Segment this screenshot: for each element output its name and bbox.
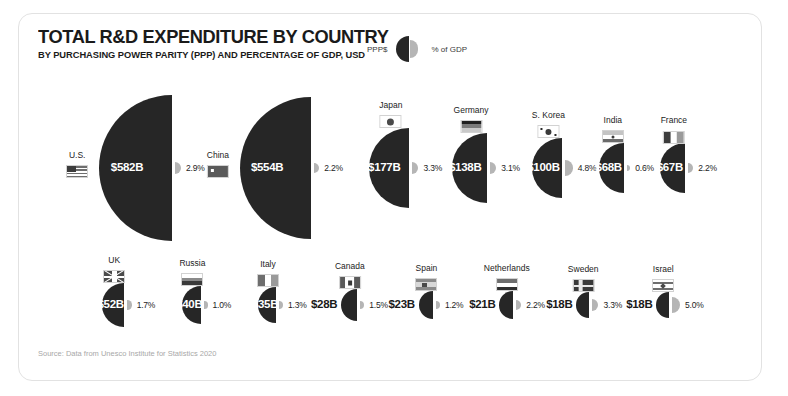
- ppp-amount-label: $35B: [252, 298, 278, 310]
- country-header: Italy: [257, 259, 279, 289]
- gdp-halfcircle: [490, 162, 496, 175]
- flag-fr-icon: [663, 131, 685, 144]
- country-name: France: [661, 115, 687, 125]
- gdp-percent-label: 0.6%: [635, 163, 654, 173]
- gdp-halfcircle: [279, 301, 283, 309]
- gdp-percent-label: 2.2%: [324, 163, 343, 173]
- gdp-halfcircle: [627, 165, 630, 171]
- ppp-amount-label: $138B: [449, 161, 481, 173]
- country-name: India: [602, 115, 624, 125]
- country-header: S. Korea: [532, 110, 565, 140]
- country-header: Sweden: [568, 264, 599, 294]
- country-header: France: [661, 115, 687, 145]
- gdp-percent-label: 3.3%: [603, 300, 622, 310]
- country-header: Israel: [652, 264, 674, 294]
- flag-it-icon: [257, 274, 279, 287]
- flag-es-icon: [415, 278, 437, 291]
- flag-se-icon: [572, 279, 594, 292]
- country-header: U.S.: [66, 150, 88, 180]
- flag-ca-icon: [339, 276, 361, 289]
- gdp-halfcircle: [204, 301, 208, 308]
- country-header: Germany: [454, 105, 489, 135]
- gdp-halfcircle: [314, 163, 319, 174]
- country-name: Italy: [257, 259, 279, 269]
- chart-plot-area: $582B2.9%U.S.$554B2.2%China$177B3.3%Japa…: [19, 14, 763, 382]
- ppp-amount-label: $18B: [546, 298, 572, 310]
- flag-cn-icon: [207, 165, 229, 178]
- flag-de-icon: [460, 120, 482, 133]
- gdp-percent-label: 4.8%: [578, 163, 597, 173]
- country-header: Spain: [415, 263, 437, 293]
- gdp-percent-label: 3.1%: [501, 163, 520, 173]
- gdp-percent-label: 3.3%: [423, 163, 442, 173]
- country-header: India: [602, 115, 624, 145]
- gdp-percent-label: 2.2%: [526, 300, 545, 310]
- gdp-halfcircle: [688, 163, 693, 174]
- ppp-amount-label: $52B: [97, 298, 123, 310]
- flag-nl-icon: [496, 278, 518, 291]
- ppp-halfcircle: [341, 289, 357, 321]
- gdp-halfcircle: [360, 301, 364, 310]
- gdp-halfcircle: [436, 301, 440, 309]
- flag-il-icon: [652, 279, 674, 292]
- country-name: Israel: [652, 264, 674, 274]
- country-header: UK: [103, 255, 125, 285]
- gdp-percent-label: 1.0%: [213, 300, 232, 310]
- ppp-amount-label: $18B: [626, 298, 652, 310]
- gdp-halfcircle: [175, 162, 181, 174]
- country-header: China: [207, 150, 229, 180]
- source-note: Source: Data from Unesco Institute for S…: [38, 349, 216, 358]
- ppp-halfcircle: [419, 291, 433, 320]
- gdp-halfcircle: [127, 300, 132, 309]
- flag-in-icon: [602, 130, 624, 143]
- gdp-percent-label: 1.5%: [369, 300, 388, 310]
- country-name: UK: [103, 255, 125, 265]
- country-header: Japan: [379, 100, 402, 130]
- ppp-amount-label: $28B: [311, 298, 337, 310]
- gdp-halfcircle: [672, 297, 680, 313]
- ppp-halfcircle: [656, 292, 669, 318]
- ppp-halfcircle: [576, 292, 589, 318]
- flag-us-icon: [66, 165, 88, 178]
- ppp-amount-label: $68B: [596, 161, 622, 173]
- gdp-percent-label: 2.9%: [186, 163, 205, 173]
- country-name: S. Korea: [532, 110, 565, 120]
- country-name: China: [207, 150, 229, 160]
- ppp-amount-label: $177B: [368, 161, 400, 173]
- gdp-percent-label: 1.2%: [445, 300, 464, 310]
- gdp-halfcircle: [565, 160, 573, 176]
- ppp-amount-label: $21B: [469, 298, 495, 310]
- country-name: Canada: [335, 261, 365, 271]
- country-name: Netherlands: [484, 263, 530, 273]
- ppp-amount-label: $23B: [389, 298, 415, 310]
- country-name: Japan: [379, 100, 402, 110]
- ppp-amount-label: $40B: [176, 298, 202, 310]
- country-header: Russia: [179, 258, 205, 288]
- flag-kr-icon: [537, 125, 559, 138]
- flag-ru-icon: [181, 273, 203, 286]
- ppp-amount-label: $582B: [111, 161, 143, 173]
- country-header: Canada: [335, 261, 365, 291]
- gdp-percent-label: 5.0%: [685, 300, 704, 310]
- gdp-halfcircle: [592, 299, 598, 312]
- country-name: Sweden: [568, 264, 599, 274]
- infographic-card: TOTAL R&D EXPENDITURE BY COUNTRY BY PURC…: [18, 13, 762, 381]
- country-name: U.S.: [66, 150, 88, 160]
- flag-gb-icon: [103, 270, 125, 283]
- gdp-percent-label: 2.2%: [698, 163, 717, 173]
- ppp-amount-label: $100B: [527, 161, 559, 173]
- gdp-halfcircle: [412, 162, 418, 175]
- gdp-percent-label: 1.7%: [137, 300, 156, 310]
- gdp-halfcircle: [516, 300, 521, 311]
- ppp-amount-label: $554B: [251, 161, 283, 173]
- country-name: Spain: [415, 263, 437, 273]
- country-header: Netherlands: [484, 263, 530, 293]
- gdp-percent-label: 1.3%: [288, 300, 307, 310]
- ppp-halfcircle: [499, 291, 513, 319]
- country-name: Germany: [454, 105, 489, 115]
- ppp-amount-label: $67B: [657, 161, 683, 173]
- flag-jp-icon: [380, 115, 402, 128]
- country-name: Russia: [179, 258, 205, 268]
